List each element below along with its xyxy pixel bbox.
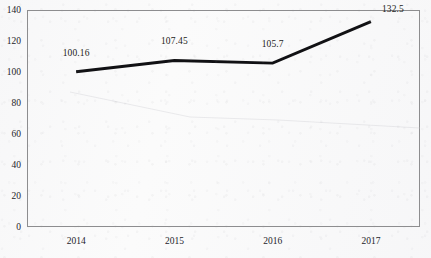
data-point-label: 132.5	[382, 4, 404, 14]
series-line	[76, 22, 371, 72]
data-point-label: 105.7	[262, 39, 284, 49]
scan-artifact-line	[70, 92, 420, 128]
data-point-label: 107.45	[161, 36, 188, 46]
line-chart: 020406080100120140 2014201520162017 100.…	[0, 0, 431, 258]
data-point-label: 100.16	[63, 48, 90, 58]
series-layer	[0, 0, 431, 258]
